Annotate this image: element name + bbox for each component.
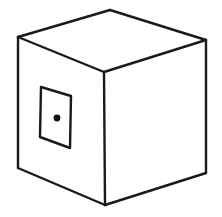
center-dot [54, 115, 61, 122]
illustration-root: Cube with square panel and centered dot [0, 0, 222, 217]
edge-vertical-center-line [104, 72, 105, 205]
cube-drawing [0, 0, 222, 217]
